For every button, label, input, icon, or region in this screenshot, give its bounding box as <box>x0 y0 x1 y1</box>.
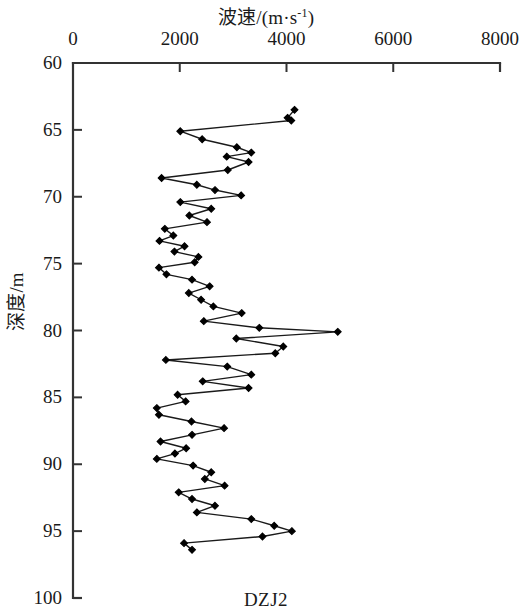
data-point-marker <box>233 144 240 151</box>
data-point-marker <box>162 357 169 364</box>
data-point-marker <box>245 385 252 392</box>
series-line <box>157 110 338 550</box>
data-point-marker <box>181 243 188 250</box>
data-point-marker <box>221 482 228 489</box>
data-point-marker <box>204 219 211 226</box>
data-point-marker <box>233 335 240 342</box>
data-point-marker <box>238 192 245 199</box>
wave-velocity-depth-figure: 波速/(m·s-1) 深度/m DZJ2 02000400060008000 6… <box>0 0 532 614</box>
y-tick-label: 70 <box>0 186 62 208</box>
data-point-marker <box>206 283 213 290</box>
data-point-marker <box>245 159 252 166</box>
data-point-marker <box>177 128 184 135</box>
x-tick-label: 8000 <box>481 28 519 50</box>
data-point-marker <box>193 181 200 188</box>
data-point-marker <box>153 456 160 463</box>
data-point-marker <box>189 431 196 438</box>
data-point-marker <box>248 149 255 156</box>
data-point-marker <box>212 502 219 509</box>
data-point-marker <box>212 187 219 194</box>
x-tick-label: 4000 <box>268 28 306 50</box>
data-point-marker <box>190 462 197 469</box>
data-series-group <box>153 106 341 553</box>
data-point-marker <box>256 324 263 331</box>
data-point-marker <box>189 496 196 503</box>
data-point-marker <box>156 237 163 244</box>
y-tick-label: 85 <box>0 386 62 408</box>
x-tick-label: 0 <box>68 28 78 50</box>
data-point-marker <box>210 303 217 310</box>
data-point-marker <box>186 212 193 219</box>
data-point-marker <box>185 290 192 297</box>
y-tick-label: 60 <box>0 52 62 74</box>
y-tick-label: 80 <box>0 320 62 342</box>
data-point-marker <box>224 167 231 174</box>
data-point-marker <box>224 363 231 370</box>
data-point-marker <box>156 411 163 418</box>
data-point-marker <box>199 378 206 385</box>
data-point-marker <box>199 136 206 143</box>
data-point-marker <box>172 450 179 457</box>
plot-canvas <box>0 0 532 614</box>
data-point-marker <box>171 248 178 255</box>
x-tick-label: 6000 <box>374 28 412 50</box>
data-point-marker <box>198 296 205 303</box>
data-point-marker <box>188 418 195 425</box>
data-point-marker <box>221 425 228 432</box>
data-point-marker <box>248 516 255 523</box>
data-point-marker <box>259 533 266 540</box>
data-point-marker <box>177 199 184 206</box>
data-point-marker <box>288 528 295 535</box>
data-point-marker <box>248 371 255 378</box>
x-tick-label: 2000 <box>161 28 199 50</box>
y-tick-label: 100 <box>0 587 62 609</box>
axes-group <box>73 63 500 598</box>
data-point-marker <box>334 328 341 335</box>
data-point-marker <box>175 489 182 496</box>
data-point-marker <box>189 276 196 283</box>
data-point-marker <box>208 205 215 212</box>
data-point-marker <box>200 318 207 325</box>
y-tick-label: 90 <box>0 453 62 475</box>
data-point-marker <box>238 310 245 317</box>
y-tick-label: 65 <box>0 119 62 141</box>
data-point-marker <box>271 522 278 529</box>
data-point-marker <box>158 175 165 182</box>
y-tick-label: 95 <box>0 520 62 542</box>
data-point-marker <box>193 509 200 516</box>
data-point-marker <box>223 153 230 160</box>
data-point-marker <box>153 405 160 412</box>
y-tick-label: 75 <box>0 253 62 275</box>
data-point-marker <box>157 438 164 445</box>
data-point-marker <box>183 445 190 452</box>
